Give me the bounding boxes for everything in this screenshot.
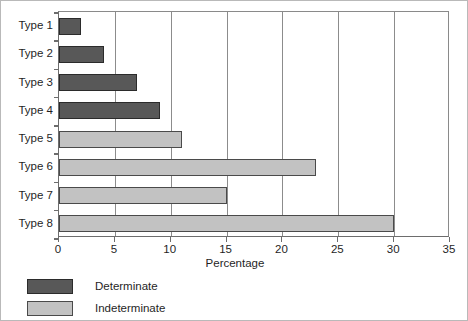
- legend-label: Indeterminate: [95, 302, 165, 314]
- x-axis-tick: [114, 237, 115, 242]
- x-axis-tick: [170, 237, 171, 242]
- legend-label: Determinate: [95, 280, 158, 292]
- y-axis-label-type-5: Type 5: [1, 132, 53, 144]
- y-axis-label-type-6: Type 6: [1, 160, 53, 172]
- x-axis-tick-label: 20: [275, 243, 288, 255]
- y-axis-tick: [54, 153, 59, 155]
- y-axis-label-type-4: Type 4: [1, 104, 53, 116]
- y-axis-labels: Type 1Type 2Type 3Type 4Type 5Type 6Type…: [1, 11, 53, 237]
- bar-row: [59, 210, 394, 238]
- y-axis-label-type-7: Type 7: [1, 189, 53, 201]
- x-axis-tick-label: 15: [219, 243, 232, 255]
- gridline: [394, 12, 395, 236]
- bar-row: [59, 12, 81, 40]
- legend-swatch: [27, 279, 73, 294]
- y-axis-label-type-8: Type 8: [1, 217, 53, 229]
- x-axis-tick-label: 0: [55, 243, 61, 255]
- x-axis-tick: [281, 237, 282, 242]
- x-axis-tick-label: 35: [443, 243, 456, 255]
- y-axis-tick: [54, 97, 59, 99]
- x-axis-title: Percentage: [1, 257, 468, 269]
- x-axis-tick: [449, 237, 450, 242]
- bar-row: [59, 40, 104, 68]
- y-axis-tick: [54, 125, 59, 127]
- x-axis-tick: [337, 237, 338, 242]
- gridline: [282, 12, 283, 236]
- bar-row: [59, 153, 316, 181]
- legend-item-determinate[interactable]: Determinate: [27, 276, 165, 296]
- bar-row: [59, 125, 182, 153]
- bar-type-8[interactable]: [59, 215, 394, 232]
- bar-row: [59, 69, 137, 97]
- legend-item-indeterminate[interactable]: Indeterminate: [27, 298, 165, 318]
- gridline: [338, 12, 339, 236]
- bar-type-6[interactable]: [59, 159, 316, 176]
- y-axis-tick: [54, 40, 59, 42]
- x-axis-tick-label: 25: [331, 243, 344, 255]
- x-axis-tick: [58, 237, 59, 242]
- bar-type-2[interactable]: [59, 46, 104, 63]
- x-axis-tick-label: 30: [387, 243, 400, 255]
- chart-figure: Type 1Type 2Type 3Type 4Type 5Type 6Type…: [0, 0, 468, 321]
- y-axis-label-type-2: Type 2: [1, 47, 53, 59]
- bar-type-7[interactable]: [59, 187, 227, 204]
- x-axis-tick: [393, 237, 394, 242]
- bar-row: [59, 182, 227, 210]
- y-axis-tick: [54, 182, 59, 184]
- y-axis-label-type-1: Type 1: [1, 19, 53, 31]
- y-axis-label-type-3: Type 3: [1, 76, 53, 88]
- chart-legend: DeterminateIndeterminate: [27, 276, 165, 320]
- y-axis-tick: [54, 210, 59, 212]
- legend-swatch: [27, 301, 73, 316]
- x-axis-tick: [226, 237, 227, 242]
- gridline: [227, 12, 228, 236]
- y-axis-tick: [54, 12, 59, 14]
- bar-type-5[interactable]: [59, 131, 182, 148]
- y-axis-tick: [54, 69, 59, 71]
- x-axis-tick-label: 10: [163, 243, 176, 255]
- bar-type-3[interactable]: [59, 74, 137, 91]
- plot-area: [58, 11, 449, 237]
- x-axis-tick-label: 5: [111, 243, 117, 255]
- bar-row: [59, 97, 160, 125]
- bar-type-1[interactable]: [59, 18, 81, 35]
- bar-type-4[interactable]: [59, 102, 160, 119]
